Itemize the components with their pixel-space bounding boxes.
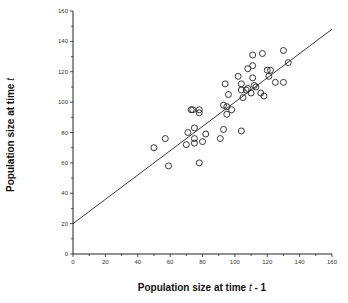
x-tick-label: 100 bbox=[230, 259, 241, 265]
x-tick-label: 0 bbox=[71, 259, 75, 265]
y-tick-label: 20 bbox=[61, 221, 68, 227]
y-tick-label: 80 bbox=[61, 130, 68, 136]
data-point bbox=[203, 131, 209, 137]
x-tick-label: 160 bbox=[327, 259, 338, 265]
x-axis: 020406080100120140160 bbox=[71, 254, 337, 265]
data-point bbox=[250, 52, 256, 58]
data-point bbox=[248, 90, 254, 96]
data-point bbox=[280, 79, 286, 85]
y-tick-label: 140 bbox=[58, 38, 69, 44]
data-point bbox=[280, 47, 286, 53]
data-point bbox=[222, 81, 228, 87]
data-point bbox=[191, 125, 197, 131]
data-point bbox=[259, 51, 265, 57]
data-point bbox=[224, 111, 230, 117]
data-point bbox=[238, 128, 244, 134]
regression-line bbox=[73, 29, 332, 223]
data-point bbox=[166, 163, 172, 169]
data-point bbox=[285, 60, 291, 66]
data-point bbox=[151, 145, 157, 151]
data-point bbox=[200, 139, 206, 145]
x-tick-label: 20 bbox=[102, 259, 109, 265]
data-point bbox=[183, 142, 189, 148]
data-point bbox=[221, 126, 227, 132]
y-tick-label: 160 bbox=[58, 8, 69, 14]
x-tick-label: 80 bbox=[199, 259, 206, 265]
y-axis-title: Population size at time t bbox=[5, 77, 16, 192]
data-point bbox=[217, 136, 223, 142]
y-tick-label: 40 bbox=[61, 190, 68, 196]
data-point bbox=[196, 160, 202, 166]
data-point bbox=[250, 63, 256, 69]
data-points bbox=[151, 47, 291, 168]
y-axis: 020406080100120140160 bbox=[58, 8, 73, 257]
x-tick-label: 120 bbox=[262, 259, 273, 265]
data-point bbox=[238, 81, 244, 87]
x-tick-label: 60 bbox=[167, 259, 174, 265]
data-point bbox=[185, 130, 191, 136]
data-point bbox=[162, 136, 168, 142]
x-tick-label: 140 bbox=[295, 259, 306, 265]
data-point bbox=[235, 73, 241, 79]
x-axis-title: Population size at time t - 1 bbox=[138, 282, 267, 293]
data-point bbox=[250, 75, 256, 81]
data-point bbox=[272, 79, 278, 85]
y-tick-label: 0 bbox=[65, 251, 69, 257]
scatter-plot: 020406080100120140160 020406080100120140… bbox=[0, 0, 348, 303]
y-tick-label: 120 bbox=[58, 69, 69, 75]
data-point bbox=[229, 107, 235, 113]
y-tick-label: 100 bbox=[58, 99, 69, 105]
data-point bbox=[253, 84, 259, 90]
data-point bbox=[225, 92, 231, 98]
data-point bbox=[191, 140, 197, 146]
x-tick-label: 40 bbox=[134, 259, 141, 265]
y-tick-label: 60 bbox=[61, 160, 68, 166]
